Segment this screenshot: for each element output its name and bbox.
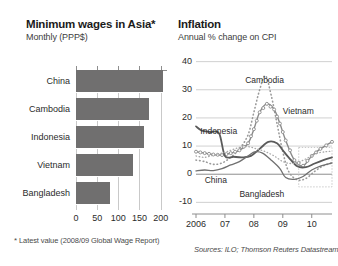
page-title-minimum-wages: Minimum wages in Asia* bbox=[26, 18, 155, 30]
line-marker-vietnam bbox=[249, 135, 252, 138]
bar-category-label: Indonesia bbox=[31, 132, 70, 142]
line-marker-vietnam bbox=[238, 149, 241, 152]
page-title-inflation: Inflation bbox=[178, 18, 221, 30]
subtitle-inflation: Annual % change on CPI bbox=[178, 32, 276, 42]
line-xtick-label-10: 10 bbox=[307, 219, 317, 229]
bar-rect-china bbox=[76, 70, 163, 93]
line-marker-vietnam bbox=[306, 159, 309, 162]
line-marker-vietnam bbox=[278, 122, 281, 125]
line-marker-vietnam bbox=[289, 149, 292, 152]
series-annotation-cambodia: Cambodia bbox=[245, 75, 284, 85]
series-annotation-bangladesh: Bangladesh bbox=[239, 189, 284, 199]
line-marker-vietnam bbox=[273, 108, 276, 111]
bar-row: Bangladesh bbox=[76, 182, 167, 204]
bar-row: Indonesia bbox=[76, 126, 167, 148]
bar-xtick-label-50: 50 bbox=[92, 213, 102, 223]
bar-chart-minimum-wages: ChinaCambodiaIndonesiaVietnamBangladesh … bbox=[0, 62, 172, 214]
line-ytick-label-10: 10 bbox=[172, 140, 192, 150]
line-ytick-label--10: -10 bbox=[172, 196, 192, 206]
line-marker-vietnam bbox=[276, 115, 279, 118]
footnote-text: Latest value (2008/09 Global Wage Report… bbox=[17, 236, 159, 245]
footnote-minimum-wages: * Latest value (2008/09 Global Wage Repo… bbox=[14, 236, 159, 245]
line-marker-vietnam bbox=[199, 151, 202, 154]
line-ytick-label-0: 0 bbox=[172, 168, 192, 178]
line-marker-vietnam bbox=[208, 152, 211, 155]
line-marker-vietnam bbox=[195, 150, 198, 153]
bar-plot-area: ChinaCambodiaIndonesiaVietnamBangladesh … bbox=[76, 70, 167, 216]
bar-category-label: Bangladesh bbox=[22, 188, 70, 198]
line-chart-inflation: -10010203040 200607080910 CambodiaVietna… bbox=[172, 48, 337, 238]
bar-row: Vietnam bbox=[76, 154, 167, 176]
minimum-wages-panel: Minimum wages in Asia* Monthly (PPP$) Ch… bbox=[0, 0, 172, 266]
line-ytick-label-30: 30 bbox=[172, 84, 192, 94]
bar-rect-vietnam bbox=[76, 154, 133, 177]
line-marker-vietnam bbox=[234, 150, 237, 153]
line-ytick-label-40: 40 bbox=[172, 56, 192, 66]
line-marker-vietnam bbox=[258, 111, 261, 114]
bar-category-label: Cambodia bbox=[29, 104, 70, 114]
line-ytick-label-20: 20 bbox=[172, 112, 192, 122]
series-annotation-vietnam: Vietnam bbox=[283, 106, 314, 116]
line-marker-vietnam bbox=[247, 142, 250, 145]
line-marker-vietnam bbox=[229, 152, 232, 155]
bar-category-label: Vietnam bbox=[37, 160, 70, 170]
line-marker-vietnam bbox=[252, 128, 255, 131]
line-xtick-label-08: 08 bbox=[249, 219, 259, 229]
series-annotation-indonesia: Indonesia bbox=[200, 126, 237, 136]
bar-xtick-label-150: 150 bbox=[132, 213, 147, 223]
bar-rect-bangladesh bbox=[76, 182, 110, 205]
line-marker-vietnam bbox=[262, 107, 265, 110]
bar-xtick-label-0: 0 bbox=[73, 213, 78, 223]
line-xtick-label-07: 07 bbox=[220, 219, 230, 229]
line-marker-vietnam bbox=[203, 152, 206, 155]
line-marker-vietnam bbox=[325, 144, 328, 147]
series-annotation-china: China bbox=[205, 175, 227, 185]
subtitle-minimum-wages: Monthly (PPP$) bbox=[26, 32, 88, 42]
bar-xtick-label-100: 100 bbox=[111, 213, 126, 223]
line-xtick-label-2006: 2006 bbox=[186, 219, 206, 229]
line-marker-vietnam bbox=[255, 119, 258, 122]
line-marker-vietnam bbox=[319, 147, 322, 150]
line-marker-vietnam bbox=[331, 140, 334, 143]
bar-row: China bbox=[76, 70, 167, 92]
bar-category-label: China bbox=[46, 76, 70, 86]
line-marker-vietnam bbox=[281, 131, 284, 134]
bar-rect-indonesia bbox=[76, 126, 144, 149]
bar-rect-cambodia bbox=[76, 98, 149, 121]
line-xtick-label-09: 09 bbox=[278, 219, 288, 229]
line-marker-vietnam bbox=[284, 139, 287, 142]
bar-xtick-label-200: 200 bbox=[153, 213, 168, 223]
inflation-panel: Inflation Annual % change on CPI -100102… bbox=[172, 0, 337, 266]
line-marker-vietnam bbox=[269, 105, 272, 108]
bar-row: Cambodia bbox=[76, 98, 167, 120]
sources-note: Sources: ILO; Thomson Reuters Datastream bbox=[194, 245, 338, 254]
line-marker-vietnam bbox=[293, 159, 296, 162]
line-marker-vietnam bbox=[265, 102, 268, 105]
